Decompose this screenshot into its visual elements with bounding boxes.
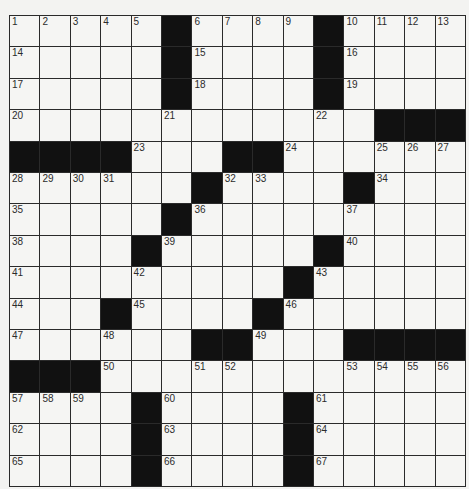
grid-cell[interactable]	[71, 267, 101, 298]
grid-cell[interactable]: 22	[314, 110, 344, 141]
grid-cell[interactable]	[71, 236, 101, 267]
grid-cell[interactable]	[71, 110, 101, 141]
grid-cell[interactable]: 48	[101, 330, 131, 361]
grid-cell[interactable]	[40, 330, 70, 361]
grid-cell[interactable]	[375, 267, 405, 298]
grid-cell[interactable]: 66	[162, 456, 192, 487]
grid-cell[interactable]: 39	[162, 236, 192, 267]
grid-cell[interactable]: 13	[436, 16, 466, 47]
grid-cell[interactable]	[344, 110, 374, 141]
grid-cell[interactable]	[436, 267, 466, 298]
grid-cell[interactable]	[375, 204, 405, 235]
grid-cell[interactable]: 38	[10, 236, 40, 267]
grid-cell[interactable]	[40, 47, 70, 78]
grid-cell[interactable]	[253, 424, 283, 455]
grid-cell[interactable]	[314, 361, 344, 392]
grid-cell[interactable]: 40	[344, 236, 374, 267]
grid-cell[interactable]	[162, 299, 192, 330]
grid-cell[interactable]: 56	[436, 361, 466, 392]
grid-cell[interactable]: 50	[101, 361, 131, 392]
grid-cell[interactable]: 11	[375, 16, 405, 47]
grid-cell[interactable]: 41	[10, 267, 40, 298]
grid-cell[interactable]: 52	[223, 361, 253, 392]
grid-cell[interactable]	[40, 299, 70, 330]
grid-cell[interactable]	[253, 236, 283, 267]
grid-cell[interactable]	[40, 236, 70, 267]
grid-cell[interactable]: 7	[223, 16, 253, 47]
grid-cell[interactable]	[223, 299, 253, 330]
grid-cell[interactable]	[162, 173, 192, 204]
grid-cell[interactable]	[101, 79, 131, 110]
grid-cell[interactable]: 67	[314, 456, 344, 487]
grid-cell[interactable]	[101, 110, 131, 141]
grid-cell[interactable]	[71, 424, 101, 455]
grid-cell[interactable]	[284, 330, 314, 361]
grid-cell[interactable]: 62	[10, 424, 40, 455]
grid-cell[interactable]: 61	[314, 393, 344, 424]
grid-cell[interactable]	[405, 267, 435, 298]
grid-cell[interactable]: 26	[405, 142, 435, 173]
grid-cell[interactable]	[101, 393, 131, 424]
grid-cell[interactable]: 8	[253, 16, 283, 47]
grid-cell[interactable]	[405, 424, 435, 455]
grid-cell[interactable]	[101, 456, 131, 487]
grid-cell[interactable]	[284, 173, 314, 204]
grid-cell[interactable]	[436, 204, 466, 235]
grid-cell[interactable]	[436, 393, 466, 424]
grid-cell[interactable]	[40, 204, 70, 235]
grid-cell[interactable]: 34	[375, 173, 405, 204]
grid-cell[interactable]: 49	[253, 330, 283, 361]
grid-cell[interactable]	[253, 267, 283, 298]
grid-cell[interactable]: 47	[10, 330, 40, 361]
grid-cell[interactable]	[101, 236, 131, 267]
grid-cell[interactable]	[436, 173, 466, 204]
grid-cell[interactable]: 63	[162, 424, 192, 455]
grid-cell[interactable]: 32	[223, 173, 253, 204]
grid-cell[interactable]	[132, 110, 162, 141]
grid-cell[interactable]	[436, 236, 466, 267]
grid-cell[interactable]	[192, 456, 222, 487]
grid-cell[interactable]: 4	[101, 16, 131, 47]
grid-cell[interactable]	[436, 424, 466, 455]
grid-cell[interactable]	[162, 142, 192, 173]
grid-cell[interactable]: 21	[162, 110, 192, 141]
grid-cell[interactable]: 19	[344, 79, 374, 110]
grid-cell[interactable]	[253, 79, 283, 110]
grid-cell[interactable]	[314, 330, 344, 361]
grid-cell[interactable]	[223, 424, 253, 455]
grid-cell[interactable]	[71, 47, 101, 78]
grid-cell[interactable]: 30	[71, 173, 101, 204]
grid-cell[interactable]	[223, 236, 253, 267]
grid-cell[interactable]	[284, 47, 314, 78]
grid-cell[interactable]	[192, 299, 222, 330]
grid-cell[interactable]	[40, 79, 70, 110]
grid-cell[interactable]	[101, 424, 131, 455]
grid-cell[interactable]	[405, 236, 435, 267]
grid-cell[interactable]	[132, 330, 162, 361]
grid-cell[interactable]	[436, 79, 466, 110]
grid-cell[interactable]	[132, 361, 162, 392]
grid-cell[interactable]: 64	[314, 424, 344, 455]
grid-cell[interactable]: 60	[162, 393, 192, 424]
grid-cell[interactable]	[162, 361, 192, 392]
grid-cell[interactable]	[344, 456, 374, 487]
grid-cell[interactable]	[375, 456, 405, 487]
grid-cell[interactable]: 23	[132, 142, 162, 173]
grid-cell[interactable]	[405, 299, 435, 330]
grid-cell[interactable]	[223, 393, 253, 424]
grid-cell[interactable]: 59	[71, 393, 101, 424]
grid-cell[interactable]	[405, 173, 435, 204]
grid-cell[interactable]	[71, 456, 101, 487]
grid-cell[interactable]	[314, 299, 344, 330]
grid-cell[interactable]	[344, 142, 374, 173]
grid-cell[interactable]	[71, 79, 101, 110]
grid-cell[interactable]	[375, 47, 405, 78]
grid-cell[interactable]: 55	[405, 361, 435, 392]
grid-cell[interactable]	[344, 393, 374, 424]
grid-cell[interactable]	[344, 267, 374, 298]
grid-cell[interactable]	[436, 456, 466, 487]
grid-cell[interactable]: 53	[344, 361, 374, 392]
grid-cell[interactable]: 58	[40, 393, 70, 424]
grid-cell[interactable]: 18	[192, 79, 222, 110]
grid-cell[interactable]: 24	[284, 142, 314, 173]
